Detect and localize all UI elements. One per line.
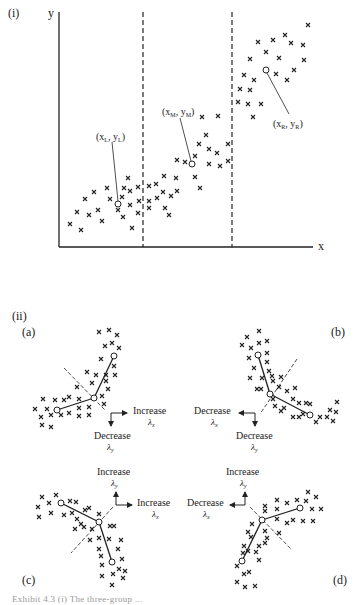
panel-b-upper-centroid	[255, 352, 261, 358]
panel-d-vertical-lambda: λy	[239, 478, 247, 489]
panel-a-points	[33, 328, 121, 429]
panel-a-label: (a)	[22, 325, 35, 339]
panel-c-lower-centroid	[109, 559, 115, 565]
panel-a-upper-centroid	[111, 353, 117, 359]
panel-d-right-centroid	[297, 505, 303, 511]
panel-d-vertical-direction: Increase	[226, 466, 260, 477]
panel-a: (a) Increase λx Decrease λy	[22, 325, 167, 453]
panel-b-middle-centroid	[267, 391, 273, 397]
left-group-points	[68, 176, 141, 232]
panel-d-label: (d)	[333, 573, 347, 587]
panel-b-direction-arrows: Decrease λx Decrease λy	[194, 405, 273, 453]
panel-c-horizontal-lambda: λx	[151, 509, 159, 520]
panel-d-horizontal-lambda: λx	[202, 509, 210, 520]
panel-b-horizontal-lambda: λx	[210, 417, 218, 428]
panel-a-direction-arrows: Increase λx Decrease λy	[94, 405, 167, 453]
panel-b-horizontal-direction: Decrease	[194, 405, 231, 416]
middle-centroid-label: (xM, yM)	[162, 106, 194, 118]
part-ii-label: (ii)	[12, 309, 27, 323]
panel-c: (c) Increase λy Increase λx	[22, 466, 171, 587]
y-axis-label: y	[48, 6, 54, 20]
panel-c-left-arm-line	[61, 503, 99, 522]
right-group-points	[236, 23, 310, 119]
middle-centroid-leader-line	[180, 118, 191, 161]
panel-b-vertical-lambda: λy	[250, 442, 258, 453]
panel-a-vertical-lambda: λy	[106, 442, 114, 453]
panel-d-direction-arrows: Increase λy Decrease λx	[187, 466, 260, 520]
panel-b-label: (b)	[331, 325, 345, 339]
panel-b-vertical-direction: Decrease	[236, 430, 273, 441]
part-i-label: (i)	[8, 6, 19, 20]
panel-d-middle-centroid	[259, 517, 265, 523]
panel-a-upper-arm-line	[94, 356, 114, 398]
panel-c-vertical-lambda: λy	[110, 478, 118, 489]
panel-b: (b) Decrease λx Decrease λy	[194, 325, 345, 453]
panel-c-label: (c)	[22, 573, 35, 587]
panel-c-vertical-direction: Increase	[97, 466, 131, 477]
panel-d-lower-centroid	[239, 558, 245, 564]
middle-group-points	[147, 114, 230, 217]
panel-d-lower-arm-line	[242, 520, 262, 561]
x-axis-label: x	[318, 239, 324, 253]
right-centroid-marker	[263, 67, 269, 73]
panel-b-right-centroid	[307, 412, 313, 418]
figure-caption: Exhibit 4.3 (i) The three-group ...	[12, 594, 143, 604]
panel-a-horizontal-direction: Increase	[133, 405, 167, 416]
left-centroid-marker	[115, 201, 121, 207]
panel-c-horizontal-direction: Increase	[137, 497, 171, 508]
panel-b-points	[240, 329, 339, 424]
left-centroid-label: (xL, yL)	[96, 131, 125, 143]
panel-a-vertical-direction: Decrease	[94, 430, 131, 441]
panel-d-dashed-bisector	[250, 507, 292, 550]
figure-canvas: (i) y x	[0, 0, 358, 605]
panel-c-middle-centroid	[96, 519, 102, 525]
panel-c-left-centroid	[58, 500, 64, 506]
right-centroid-label: (xR, yR)	[273, 118, 303, 130]
panel-a-horizontal-lambda: λx	[147, 417, 155, 428]
panel-a-left-centroid	[54, 407, 60, 413]
part-i-scatter-plot: (i) y x	[8, 6, 324, 253]
middle-centroid-marker	[189, 161, 195, 167]
panel-d: (d) Increase λy Decrease λx	[187, 466, 347, 589]
panel-c-points	[36, 493, 127, 587]
left-centroid-leader-line	[112, 142, 118, 201]
panel-d-horizontal-direction: Decrease	[187, 497, 224, 508]
panel-d-points	[235, 490, 323, 589]
panel-a-middle-centroid	[91, 395, 97, 401]
